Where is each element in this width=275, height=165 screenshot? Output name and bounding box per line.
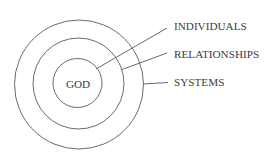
label-relationships: RELATIONSHIPS	[174, 48, 259, 60]
leader-line-systems	[143, 83, 168, 85]
center-label-god: GOD	[66, 78, 90, 90]
label-systems: SYSTEMS	[174, 76, 224, 88]
label-individuals: INDIVIDUALS	[174, 20, 247, 32]
concentric-circles-diagram: GOD INDIVIDUALS RELATIONSHIPS SYSTEMS	[0, 0, 275, 165]
leader-line-relationships	[122, 53, 167, 70]
leader-line-individuals	[96, 28, 167, 69]
